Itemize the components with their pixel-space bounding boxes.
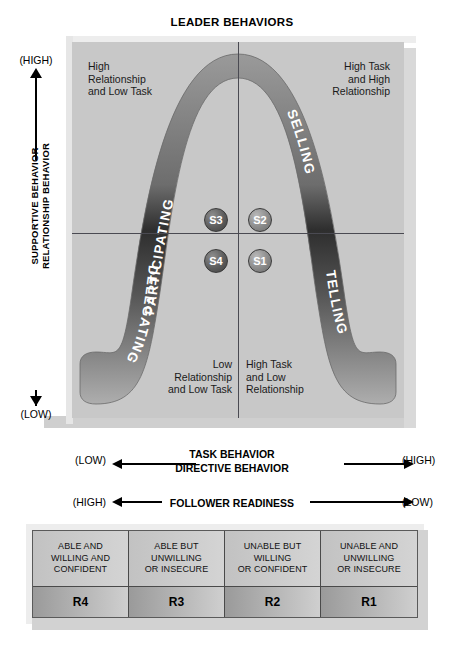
readiness-table: ABLE AND WILLING AND CONFIDENT ABLE BUT …	[32, 530, 418, 618]
quadrant-label-bottom-left: Low Relationship and Low Task	[86, 358, 232, 396]
readiness-description-r2: UNABLE BUT WILLING OR CONFIDENT	[225, 531, 321, 586]
style-node-s3[interactable]: S3	[204, 208, 228, 232]
readiness-description-r1: UNABLE AND UNWILLING OR INSECURE	[321, 531, 417, 586]
quadrant-label-bottom-right: High Task and Low Relationship	[246, 358, 386, 396]
task-behavior-axis: (LOW) TASK BEHAVIOR DIRECTIVE BEHAVIOR (…	[0, 448, 464, 482]
task-axis-left-label: (LOW)	[56, 454, 106, 466]
readiness-level-r1: R1	[321, 587, 417, 617]
vertical-axis-label: SUPPORTIVE BEHAVIOR RELATIONSHIP BEHAVIO…	[29, 96, 51, 316]
page-title: LEADER BEHAVIORS	[0, 16, 464, 28]
follower-axis-left-label: (HIGH)	[56, 496, 106, 508]
readiness-description-r4: ABLE AND WILLING AND CONFIDENT	[33, 531, 129, 586]
chart-plot-area: PARTICIPATING SELLING DELEGATING TELLING…	[72, 42, 404, 418]
quadrant-divider-horizontal	[72, 233, 404, 234]
readiness-table-descriptions-row: ABLE AND WILLING AND CONFIDENT ABLE BUT …	[33, 531, 417, 586]
quadrant-divider-vertical	[238, 42, 239, 418]
style-node-s4[interactable]: S4	[204, 249, 228, 273]
readiness-level-r2: R2	[225, 587, 321, 617]
task-axis-center-line1: TASK BEHAVIOR	[132, 447, 332, 461]
follower-axis-center-label: FOLLOWER READINESS	[132, 496, 332, 510]
style-node-s1[interactable]: S1	[248, 249, 272, 273]
quadrant-label-top-left: High Relationship and Low Task	[88, 60, 218, 98]
arrow-up-icon	[30, 68, 42, 78]
vertical-axis-high-label: (HIGH)	[6, 54, 66, 66]
task-axis-center-line2: DIRECTIVE BEHAVIOR	[132, 461, 332, 475]
readiness-level-r4: R4	[33, 587, 129, 617]
quadrant-label-top-right: High Task and High Relationship	[258, 60, 390, 98]
vertical-axis-low-label: (LOW)	[6, 408, 66, 420]
readiness-table-levels-row: R4 R3 R2 R1	[33, 586, 417, 617]
task-axis-center-label: TASK BEHAVIOR DIRECTIVE BEHAVIOR	[132, 447, 332, 475]
task-axis-right-label: (HIGH)	[402, 454, 452, 466]
chart-side-shadow	[404, 48, 416, 428]
readiness-level-r3: R3	[129, 587, 225, 617]
follower-axis-right-label: (LOW)	[402, 496, 452, 508]
leader-behaviors-chart: PARTICIPATING SELLING DELEGATING TELLING…	[72, 42, 404, 418]
style-node-s2[interactable]: S2	[248, 208, 272, 232]
vertical-axis-label-line2: RELATIONSHIP BEHAVIOR	[40, 96, 51, 316]
vertical-axis-label-line1: SUPPORTIVE BEHAVIOR	[29, 96, 40, 316]
task-axis-right-line	[344, 463, 406, 465]
arrow-down-icon	[30, 396, 42, 406]
follower-axis-right-line	[310, 501, 406, 503]
follower-readiness-axis: (HIGH) FOLLOWER READINESS (LOW)	[0, 490, 464, 524]
readiness-description-r3: ABLE BUT UNWILLING OR INSECURE	[129, 531, 225, 586]
